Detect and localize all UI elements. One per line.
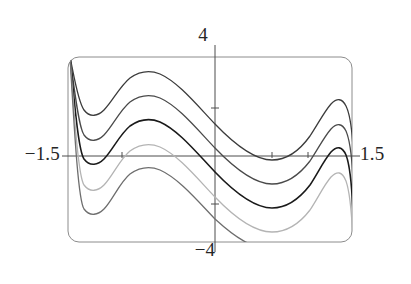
- curve-group: [70, 57, 353, 247]
- data-curve-4: [70, 57, 353, 242]
- axis-label-top: 4: [198, 24, 208, 46]
- axis-label-right: 1.5: [360, 143, 384, 165]
- data-curve-5: [70, 57, 264, 247]
- plot-figure: 4 −4 −1.5 1.5: [0, 0, 411, 284]
- axis-label-left: −1.5: [25, 143, 60, 165]
- axis-label-bottom: −4: [195, 239, 216, 261]
